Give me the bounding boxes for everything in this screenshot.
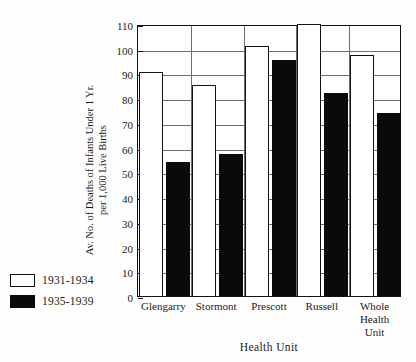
chart-legend: 1931-1934 1935-1939 <box>10 272 94 314</box>
y-axis-tick-mark <box>138 51 143 52</box>
y-axis-tick-mark <box>138 298 143 299</box>
bar-1931-1934-Glengarry <box>139 72 163 296</box>
x-axis-tick-label: Prescott <box>251 300 286 313</box>
plot-area: 0102030405060708090100110 <box>137 25 401 297</box>
x-axis-tick-labels: GlengarryStormontPrescottRussellWhole He… <box>137 300 401 346</box>
y-axis-tick-label: 30 <box>122 218 133 230</box>
y-axis-title: Av. No. of Deaths of Infants Under 1 Yr.… <box>84 60 104 280</box>
bar-1935-1939-Prescott <box>272 60 296 296</box>
bar-1935-1939-Whole-Health-Unit <box>377 113 401 296</box>
gridline <box>138 51 400 52</box>
bar-1935-1939-Stormont <box>219 154 243 296</box>
y-axis-tick-label: 80 <box>122 94 133 106</box>
bar-1931-1934-Whole-Health-Unit <box>350 55 374 296</box>
x-axis-tick-label: Stormont <box>196 300 237 313</box>
legend-item: 1931-1934 <box>10 272 94 288</box>
x-axis-tick-label: Russell <box>306 300 338 313</box>
y-axis-tick-label: 20 <box>122 243 133 255</box>
bar-1931-1934-Prescott <box>245 46 269 296</box>
legend-item: 1935-1939 <box>10 293 94 309</box>
y-axis-tick-label: 70 <box>122 119 133 131</box>
bar-1935-1939-Russell <box>324 93 348 296</box>
y-axis-tick-label: 0 <box>128 292 134 304</box>
open-square-icon <box>10 274 35 287</box>
y-axis-tick-mark <box>138 26 143 27</box>
legend-item-label: 1935-1939 <box>42 295 94 307</box>
bar-1935-1939-Glengarry <box>166 162 190 296</box>
y-axis-tick-label: 60 <box>122 144 133 156</box>
bar-1931-1934-Russell <box>297 24 321 296</box>
y-axis-tick-label: 110 <box>117 20 133 32</box>
x-axis-tick-label: Whole Health Unit <box>360 300 389 339</box>
bar-1931-1934-Stormont <box>192 85 216 296</box>
x-axis-tick-label: Glengarry <box>141 300 186 313</box>
filled-square-icon <box>10 295 35 308</box>
x-axis-title: Health Unit <box>137 341 401 353</box>
y-axis-tick-label: 50 <box>122 168 133 180</box>
chart-figure: 1931-1934 1935-1939 Av. No. of Deaths of… <box>0 0 416 362</box>
y-axis-tick-label: 10 <box>122 267 133 279</box>
y-axis-tick-label: 40 <box>122 193 133 205</box>
plot-frame: 0102030405060708090100110 <box>137 25 401 297</box>
y-axis-tick-label: 100 <box>117 45 134 57</box>
y-axis-tick-label: 90 <box>122 69 133 81</box>
